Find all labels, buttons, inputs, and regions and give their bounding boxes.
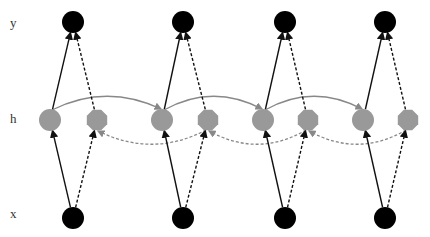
- output-node-y: [62, 11, 84, 33]
- label-output-y: y: [10, 15, 17, 31]
- output-node-y: [374, 11, 396, 33]
- forward-edge: [365, 131, 382, 208]
- output-node-y: [274, 11, 296, 33]
- input-node-x: [172, 207, 194, 229]
- forward-edge: [53, 131, 71, 208]
- backward-recurrent-arc: [309, 130, 406, 144]
- backward-edge: [76, 131, 95, 208]
- forward-recurrent-arc: [164, 96, 262, 110]
- backward-edge: [186, 131, 206, 208]
- backward-edge: [388, 33, 406, 110]
- forward-edge: [53, 33, 71, 110]
- input-node-x: [374, 207, 396, 229]
- hidden-backward-node: [198, 110, 218, 130]
- hidden-forward-node: [352, 109, 374, 131]
- label-input-x: x: [10, 206, 17, 222]
- backward-edge: [288, 131, 306, 208]
- bidirectional-rnn-diagram: [0, 0, 430, 237]
- hidden-forward-node: [151, 109, 173, 131]
- hidden-backward-node: [298, 110, 318, 130]
- hidden-backward-node: [398, 110, 418, 130]
- forward-edge: [265, 33, 282, 110]
- input-node-x: [274, 207, 296, 229]
- hidden-backward-node: [87, 110, 107, 130]
- label-hidden-h: h: [10, 111, 17, 127]
- output-node-y: [172, 11, 194, 33]
- hidden-forward-node: [39, 109, 61, 131]
- input-node-x: [62, 207, 84, 229]
- nodes: [39, 11, 418, 229]
- forward-edge: [365, 33, 382, 110]
- forward-edge: [265, 131, 282, 208]
- hidden-forward-node: [252, 109, 274, 131]
- forward-recurrent-arc: [265, 96, 362, 110]
- backward-recurrent-arc: [209, 130, 306, 144]
- forward-edge: [164, 33, 180, 109]
- backward-recurrent-arc: [98, 130, 206, 144]
- forward-recurrent-arc: [52, 96, 161, 110]
- backward-edge: [388, 131, 406, 208]
